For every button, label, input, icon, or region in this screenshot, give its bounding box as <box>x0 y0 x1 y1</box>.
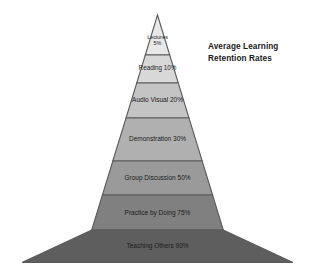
pyramid-tier-group-discussion <box>102 161 212 195</box>
pyramid-tier-audio-visual <box>126 83 189 118</box>
pyramid-tier-reading <box>137 55 179 83</box>
pyramid-tier-practice-by-doing <box>92 195 224 230</box>
learning-pyramid-figure: Lectures 5% Reading 10% Audio Visual 20%… <box>0 0 312 279</box>
pyramid-tier-teaching-others <box>22 230 293 263</box>
pyramid-tier-demonstration <box>113 118 202 161</box>
chart-title: Average Learning Retention Rates <box>208 41 304 65</box>
chart-title-line2: Retention Rates <box>208 53 304 65</box>
chart-title-line1: Average Learning <box>208 41 304 53</box>
pyramid-tier-lectures <box>145 15 169 55</box>
